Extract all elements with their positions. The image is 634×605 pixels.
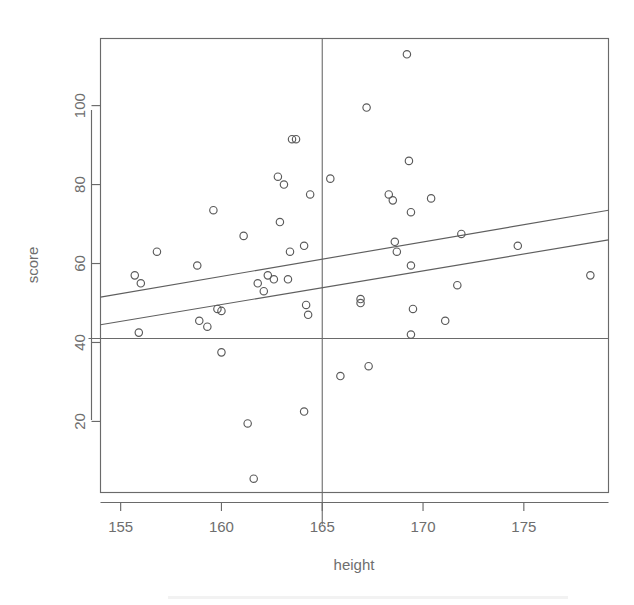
chart-canvas: 155160165170175 20406080100 height score bbox=[0, 0, 634, 605]
data-point bbox=[196, 317, 203, 324]
data-point bbox=[137, 280, 144, 287]
data-point bbox=[300, 408, 307, 415]
data-point bbox=[194, 262, 201, 269]
x-tick-label: 165 bbox=[310, 518, 335, 535]
data-point bbox=[218, 349, 225, 356]
x-tick-label: 160 bbox=[209, 518, 234, 535]
data-point bbox=[260, 287, 267, 294]
plot-frame-box bbox=[101, 39, 609, 493]
data-point bbox=[244, 420, 251, 427]
data-point bbox=[204, 323, 211, 330]
data-point bbox=[407, 331, 414, 338]
data-point bbox=[131, 272, 138, 279]
data-point bbox=[365, 362, 372, 369]
data-point bbox=[403, 51, 410, 58]
data-point bbox=[304, 311, 311, 318]
data-point bbox=[210, 207, 217, 214]
data-point bbox=[442, 317, 449, 324]
data-point bbox=[454, 282, 461, 289]
data-point bbox=[302, 301, 309, 308]
data-point bbox=[514, 242, 521, 249]
data-points-group bbox=[131, 51, 594, 483]
y-tick-label: 20 bbox=[71, 413, 88, 430]
data-point bbox=[254, 280, 261, 287]
y-tick-label: 40 bbox=[71, 334, 88, 351]
data-point bbox=[458, 230, 465, 237]
data-point bbox=[286, 248, 293, 255]
data-point bbox=[284, 276, 291, 283]
y-tick-label: 60 bbox=[71, 255, 88, 272]
data-point bbox=[153, 248, 160, 255]
x-tick-label: 170 bbox=[411, 518, 436, 535]
data-point bbox=[587, 272, 594, 279]
lower-fit-line bbox=[101, 240, 609, 325]
page-edge-artifact bbox=[168, 596, 568, 599]
data-point bbox=[274, 173, 281, 180]
data-point bbox=[327, 175, 334, 182]
x-axis: 155160165170175 bbox=[101, 503, 609, 536]
data-point bbox=[240, 232, 247, 239]
data-point bbox=[250, 475, 257, 482]
data-point bbox=[135, 329, 142, 336]
data-point bbox=[427, 195, 434, 202]
fit-lines-group bbox=[101, 210, 609, 324]
y-tick-label: 80 bbox=[71, 176, 88, 193]
data-point bbox=[393, 248, 400, 255]
y-axis-title: score bbox=[24, 247, 41, 284]
data-point bbox=[337, 372, 344, 379]
data-point bbox=[407, 209, 414, 216]
data-point bbox=[306, 191, 313, 198]
data-point bbox=[300, 242, 307, 249]
data-point bbox=[409, 305, 416, 312]
data-point bbox=[391, 238, 398, 245]
x-tick-label: 175 bbox=[511, 518, 536, 535]
reference-lines-group bbox=[89, 39, 609, 525]
y-axis: 20406080100 bbox=[71, 93, 101, 430]
upper-fit-line bbox=[101, 210, 609, 297]
data-point bbox=[407, 262, 414, 269]
data-point bbox=[276, 218, 283, 225]
data-point bbox=[270, 276, 277, 283]
x-axis-title: height bbox=[334, 556, 376, 573]
data-point bbox=[363, 104, 370, 111]
x-tick-label: 155 bbox=[108, 518, 133, 535]
data-point bbox=[405, 157, 412, 164]
data-point bbox=[389, 197, 396, 204]
data-point bbox=[280, 181, 287, 188]
scatter-plot-figure: 155160165170175 20406080100 height score bbox=[0, 0, 634, 605]
y-tick-label: 100 bbox=[71, 93, 88, 118]
